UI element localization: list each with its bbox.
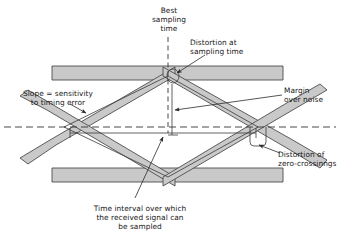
label-slope-sensitivity: Slope = sensitivity to timing error <box>6 89 110 107</box>
label-distortion-at-sampling-time: Distortion at sampling time <box>190 38 282 56</box>
label-margin-over-noise: Margin over noise <box>284 86 338 104</box>
label-distortion-zero-crossings: Distortion of zero-crossinngs <box>278 150 340 168</box>
leader-zero-crossing <box>259 145 280 153</box>
eye-diagram-figure: Best sampling time Distortion at samplin… <box>0 0 340 241</box>
reference-lines <box>4 37 336 133</box>
label-best-sampling-time: Best sampling time <box>134 6 204 34</box>
label-time-interval: Time interval over which the received si… <box>58 204 222 232</box>
rising-edge-band-left <box>20 67 175 164</box>
